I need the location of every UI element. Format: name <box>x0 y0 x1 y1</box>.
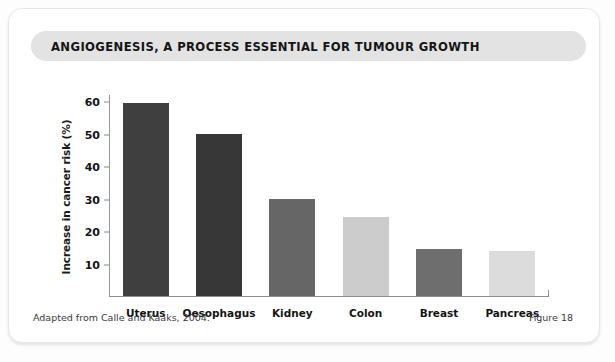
y-axis-tick-label: 10 <box>85 258 100 271</box>
y-axis-tick: 20 <box>85 226 109 239</box>
bar[interactable] <box>269 199 315 296</box>
bar-slot <box>256 95 329 296</box>
y-axis-tick: 60 <box>85 96 109 109</box>
y-axis-tick-label: 40 <box>85 161 100 174</box>
y-axis-label-text: Increase in cancer risk (%) <box>60 120 72 275</box>
bar[interactable] <box>343 217 389 296</box>
bar-slot <box>109 95 182 296</box>
y-axis-tick-label: 60 <box>85 96 100 109</box>
y-axis-tick: 50 <box>85 128 109 141</box>
page-title: ANGIOGENESIS, A PROCESS ESSENTIAL FOR TU… <box>51 39 480 54</box>
bar-slot <box>402 95 475 296</box>
y-axis-tick: 10 <box>85 258 109 271</box>
y-axis-label: Increase in cancer risk (%) <box>57 97 75 297</box>
chart-plot-area: Increase in cancer risk (%) 102030405060… <box>31 79 586 314</box>
figure-footer: Adapted from Calle and Kaaks, 2004. Figu… <box>9 312 599 328</box>
bar[interactable] <box>196 134 242 296</box>
y-axis-tick: 40 <box>85 161 109 174</box>
bar-slot <box>476 95 549 296</box>
figure-card: ANGIOGENESIS, A PROCESS ESSENTIAL FOR TU… <box>8 8 600 343</box>
bar[interactable] <box>123 103 169 296</box>
chart-axes: 102030405060 <box>109 95 549 297</box>
y-axis-tick-label: 30 <box>85 193 100 206</box>
figure-number: Figure 18 <box>529 312 573 323</box>
bar[interactable] <box>489 251 535 296</box>
y-axis-tick-label: 50 <box>85 128 100 141</box>
y-axis-tick-label: 20 <box>85 226 100 239</box>
y-axis-tick: 30 <box>85 193 109 206</box>
bar-slot <box>182 95 255 296</box>
figure-page: ANGIOGENESIS, A PROCESS ESSENTIAL FOR TU… <box>0 0 615 362</box>
bar-slot <box>329 95 402 296</box>
title-banner: ANGIOGENESIS, A PROCESS ESSENTIAL FOR TU… <box>31 31 586 61</box>
bar[interactable] <box>416 249 462 296</box>
bar-series <box>109 95 549 296</box>
source-note: Adapted from Calle and Kaaks, 2004. <box>33 312 210 323</box>
